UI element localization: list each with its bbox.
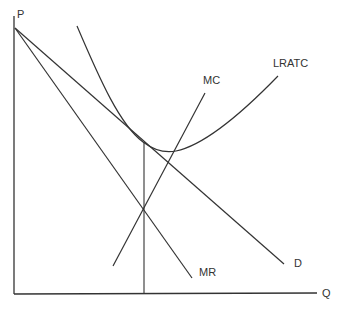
marginal-revenue-curve — [15, 28, 192, 278]
x-axis — [14, 293, 317, 294]
mc-label: MC — [203, 75, 220, 86]
lratc-curve — [77, 26, 278, 152]
marginal-cost-curve — [113, 93, 205, 266]
lratc-label: LRATC — [273, 58, 308, 69]
x-axis-label: Q — [322, 288, 331, 299]
y-axis-label: P — [17, 9, 24, 20]
demand-label: D — [294, 258, 302, 269]
chart-canvas — [0, 0, 339, 311]
economics-diagram: P Q LRATC MC MR D — [0, 0, 339, 311]
mr-label: MR — [199, 267, 216, 278]
